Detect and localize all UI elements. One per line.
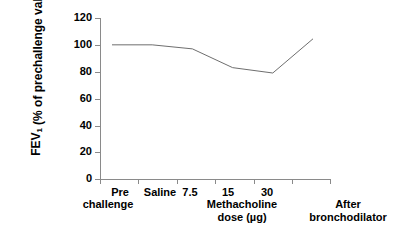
- x-label-7-5: 7.5: [170, 186, 210, 198]
- x-label-30: 30: [247, 186, 287, 198]
- x-label-after: After: [300, 198, 396, 210]
- x-group-label-methacholine: Methacholine: [182, 198, 302, 210]
- x-group-label-dose-units: dose (µg): [182, 211, 302, 223]
- fev1-line-series: [112, 39, 313, 73]
- x-label-bronchodilator: bronchodilator: [300, 211, 396, 223]
- x-label-15: 15: [208, 186, 248, 198]
- x-label-challenge: challenge: [78, 198, 138, 210]
- chart-figure: FEV1 (% of prechallenge value) 120 100 8…: [0, 0, 397, 248]
